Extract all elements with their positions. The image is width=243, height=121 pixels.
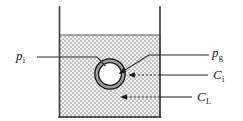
label-p-g-subscript: g — [219, 52, 223, 62]
label-c-i-symbol: C — [213, 67, 222, 82]
label-p-g: pg — [212, 46, 223, 59]
label-c-i: Ci — [213, 68, 224, 81]
label-c-l-symbol: C — [197, 89, 206, 104]
label-c-l-subscript: L — [206, 96, 211, 106]
label-c-i-subscript: i — [222, 74, 224, 84]
bubble-mass-transfer-figure: pi pg Ci CL — [0, 0, 243, 121]
label-p-g-symbol: p — [212, 45, 219, 60]
bubble-gas-core — [99, 63, 122, 86]
label-p-i-symbol: p — [16, 48, 23, 63]
label-p-i: pi — [16, 49, 25, 62]
label-c-l: CL — [197, 90, 211, 103]
label-p-i-subscript: i — [23, 55, 25, 65]
